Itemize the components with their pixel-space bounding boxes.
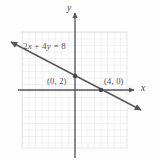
point-marker-x-intercept <box>99 88 103 92</box>
point-label-x-intercept: (4, 0) <box>104 77 124 86</box>
point-marker-y-intercept <box>73 74 77 78</box>
equation-plus: + <box>32 41 42 51</box>
x-axis-label: x <box>141 84 145 94</box>
equation-equals: = <box>51 41 61 51</box>
y-axis-label: y <box>67 4 71 14</box>
coordinate-plane <box>0 0 159 162</box>
equation-constant: 8 <box>61 41 66 51</box>
point-label-y-intercept: (0, 2) <box>47 77 67 86</box>
graph-figure: 2x + 4y = 8 (0, 2) (4, 0) y x <box>0 0 159 162</box>
equation-label: 2x + 4y = 8 <box>23 42 66 51</box>
